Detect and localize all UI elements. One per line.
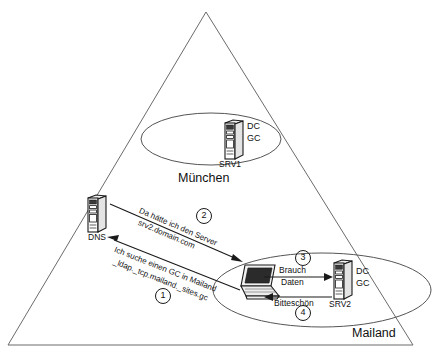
laptop-icon-client <box>241 265 279 299</box>
server-tower-icon-srv2 <box>334 260 352 299</box>
server-tower-icon-srv1 <box>225 120 243 159</box>
step-4-message-line-1: Bitteschön <box>274 299 314 308</box>
step-3-message-line-2: Daten <box>281 278 304 287</box>
srv2-role-gc: GC <box>356 279 370 289</box>
srv1-role-gc: GC <box>247 134 261 144</box>
network-diagram: DC GC SRV1 München DNS DC GC SRV2 Mailan… <box>0 0 433 358</box>
step-marker-3: 3 <box>296 253 310 263</box>
site-label-muenchen: München <box>178 172 229 186</box>
srv1-name: SRV1 <box>219 160 241 169</box>
srv2-name: SRV2 <box>329 300 351 309</box>
step-3-message-line-1: Brauch <box>279 266 306 275</box>
srv2-role-dc: DC <box>356 267 369 277</box>
step-marker-4: 4 <box>296 308 310 318</box>
site-label-mailand: Mailand <box>352 327 396 341</box>
srv1-role-dc: DC <box>247 122 260 132</box>
step-marker-1: 1 <box>156 291 170 301</box>
server-tower-icon-dns <box>88 195 106 232</box>
step-marker-2: 2 <box>197 211 211 221</box>
dns-label: DNS <box>88 233 106 242</box>
